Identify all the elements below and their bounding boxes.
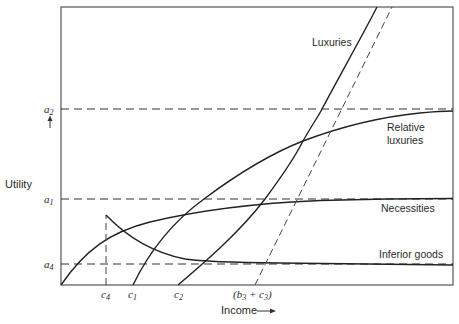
luxuries-curve xyxy=(178,7,377,285)
c4-tick-label: c4 xyxy=(101,288,110,302)
a2-tick-label: a2 xyxy=(44,103,54,117)
necessities-label: Necessities xyxy=(381,202,435,214)
a4-tick-label: a4 xyxy=(44,258,54,272)
b3-c3-dashed-line xyxy=(255,7,392,285)
c1-tick-label: c1 xyxy=(128,288,137,302)
svg-text:a1: a1 xyxy=(44,193,54,207)
utility-income-diagram: Luxuries Relative luxuries Necessities I… xyxy=(0,0,459,324)
c2-tick-label: c2 xyxy=(174,288,183,302)
right-arrow-icon xyxy=(257,309,276,314)
x-axis-label: Income xyxy=(221,304,257,316)
relative-luxuries-label-line1: Relative xyxy=(387,121,425,133)
b3-c3-tick-label: (b3 + c3) xyxy=(233,288,272,302)
svg-text:a4: a4 xyxy=(44,258,54,272)
svg-text:(b3 + c3): (b3 + c3) xyxy=(233,288,272,302)
svg-text:c4: c4 xyxy=(101,288,110,302)
a1-tick-label: a1 xyxy=(44,193,54,207)
inferior-goods-label: Inferior goods xyxy=(379,248,443,260)
svg-text:c2: c2 xyxy=(174,288,183,302)
up-arrow-icon xyxy=(48,116,53,129)
svg-text:c1: c1 xyxy=(128,288,137,302)
y-axis-label: Utility xyxy=(5,178,32,190)
relative-luxuries-label-line2: luxuries xyxy=(387,134,423,146)
plot-frame xyxy=(61,7,453,285)
svg-text:a2: a2 xyxy=(44,103,54,117)
luxuries-label: Luxuries xyxy=(312,36,352,48)
